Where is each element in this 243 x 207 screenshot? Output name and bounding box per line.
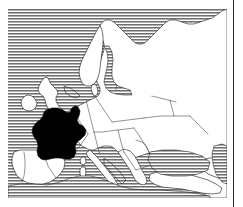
europe-map <box>0 0 243 207</box>
right-margin-rule <box>233 0 234 207</box>
map-svg <box>0 0 243 207</box>
landmass-corsica <box>80 157 86 165</box>
figure-root <box>0 0 243 207</box>
